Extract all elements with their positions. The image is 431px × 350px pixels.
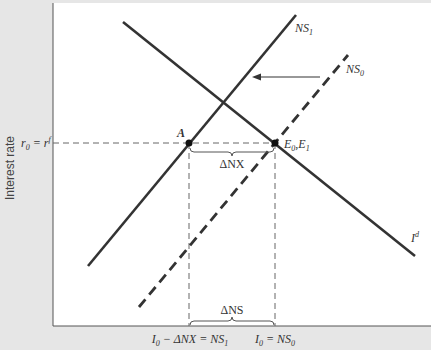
point-e-label: E0,E1 bbox=[283, 137, 310, 153]
x-tick-label-ns1: I0 − ΔNX = NS1 bbox=[151, 332, 229, 348]
interest-rate-diagram: ΔNX ΔNS A E0,E1 NS1 NS0 Id r0 = rf Inter… bbox=[0, 0, 431, 350]
y-axis-title: Interest rate bbox=[3, 136, 17, 200]
point-a bbox=[186, 140, 193, 147]
delta-ns-label: ΔNS bbox=[220, 303, 243, 317]
delta-nx-label: ΔNX bbox=[219, 157, 244, 171]
point-e bbox=[272, 140, 279, 147]
point-a-label: A bbox=[176, 126, 185, 140]
